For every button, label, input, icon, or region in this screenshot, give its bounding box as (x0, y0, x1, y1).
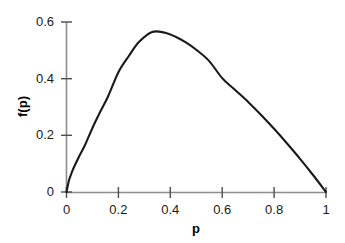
y-axis-title: f(p) (16, 83, 29, 131)
x-tick-label-0: 0 (47, 203, 87, 216)
x-axis-title: p (176, 222, 216, 235)
y-tick-label-0: 0 (14, 185, 54, 198)
x-tick-label-0.2: 0.2 (98, 203, 138, 216)
x-tick-label-1: 1 (306, 203, 345, 216)
x-tick-label-0.8: 0.8 (254, 203, 294, 216)
chart-container: 0.6 0.4 0.2 0 0 0.2 0.4 0.6 0.8 1 f(p) p (0, 0, 345, 243)
x-tick-label-0.6: 0.6 (202, 203, 242, 216)
y-tick-label-0.6: 0.6 (14, 15, 54, 28)
x-tick-label-0.4: 0.4 (150, 203, 190, 216)
data-curve (67, 31, 327, 192)
